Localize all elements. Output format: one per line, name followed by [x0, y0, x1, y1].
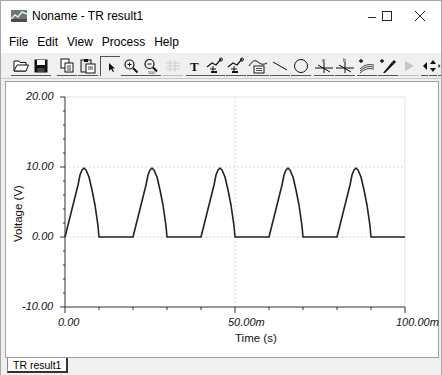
paste-icon	[80, 58, 96, 74]
app-window: Noname - TR result1 – File Edit View Pro…	[0, 0, 442, 375]
scroll-right-button[interactable]	[438, 56, 441, 76]
x-axis-title: Time (s)	[235, 332, 277, 344]
scroll-left-button[interactable]	[421, 56, 428, 76]
save-button[interactable]	[31, 56, 51, 76]
svg-text:T: T	[190, 59, 199, 73]
grid-icon	[166, 60, 180, 72]
add-curve-button[interactable]	[357, 56, 377, 76]
play-button[interactable]	[399, 56, 419, 76]
plot-grid	[65, 97, 405, 307]
save-icon	[34, 59, 48, 73]
zoom-out-icon: 100	[143, 58, 159, 74]
title-bar[interactable]: Noname - TR result1 –	[1, 1, 441, 31]
add-pen-icon	[379, 57, 397, 74]
y-axis	[60, 97, 65, 307]
up-down-arrow-icon	[429, 59, 437, 73]
svg-text:b: b	[343, 57, 346, 63]
curve-label-button[interactable]	[247, 56, 269, 76]
chart-app-icon	[11, 10, 27, 22]
marker-a-icon: a	[315, 57, 333, 74]
pointer-icon	[106, 61, 116, 73]
text-icon: T	[189, 59, 203, 73]
circle-button[interactable]	[291, 56, 311, 76]
add-curve-icon	[358, 57, 376, 74]
copy-icon	[60, 58, 75, 73]
right-arrow-icon	[438, 62, 441, 70]
window-title: Noname - TR result1	[32, 9, 143, 23]
marker-b-icon: b	[336, 57, 354, 74]
y-axis-title: Voltage (V)	[12, 185, 24, 242]
scroll-up-down-button[interactable]	[429, 56, 437, 76]
y-tick-label: 0.00	[32, 230, 53, 242]
add-pen-button[interactable]	[378, 56, 398, 76]
select-pointer-button[interactable]	[100, 56, 120, 76]
svg-text:100: 100	[148, 69, 155, 74]
cursor-b-icon	[227, 57, 245, 74]
circle-icon	[293, 58, 309, 74]
x-tick-label: 100.00m	[396, 316, 439, 328]
cursor-b-button[interactable]	[226, 56, 246, 76]
y-tick-label: -10.00	[22, 300, 53, 312]
svg-text:a: a	[322, 57, 325, 63]
close-button[interactable]	[397, 1, 442, 31]
toolbar: 100 T a	[1, 53, 441, 79]
tab-strip: TR result1	[1, 358, 441, 375]
menu-help[interactable]: Help	[150, 35, 183, 49]
menu-view[interactable]: View	[63, 35, 97, 49]
plot-panel[interactable]: 20.00 10.00 0.00 -10.00 0.00 50.00m 100.…	[5, 81, 439, 358]
copy-button[interactable]	[57, 56, 77, 76]
tab-tr-result1[interactable]: TR result1	[7, 358, 68, 373]
menu-bar: File Edit View Process Help	[1, 31, 441, 53]
marker-a-button[interactable]: a	[314, 56, 334, 76]
cursor-a-button[interactable]	[205, 56, 225, 76]
line-icon	[272, 60, 288, 72]
play-icon	[403, 60, 415, 72]
curve-label-icon	[248, 57, 268, 74]
y-tick-label: 10.00	[26, 160, 54, 172]
close-icon	[415, 11, 425, 21]
open-button[interactable]	[11, 56, 31, 76]
zoom-in-icon	[123, 58, 139, 74]
y-tick-label: 20.00	[26, 90, 54, 102]
menu-process[interactable]: Process	[98, 35, 149, 49]
open-icon	[13, 59, 29, 72]
grid-button[interactable]	[163, 56, 183, 76]
menu-file[interactable]: File	[5, 35, 32, 49]
text-button[interactable]: T	[186, 56, 206, 76]
zoom-in-button[interactable]	[121, 56, 141, 76]
maximize-icon	[382, 11, 392, 21]
x-tick-label: 0.00	[58, 316, 79, 328]
line-button[interactable]	[270, 56, 290, 76]
marker-b-button[interactable]: b	[335, 56, 355, 76]
menu-edit[interactable]: Edit	[33, 35, 62, 49]
zoom-out-button[interactable]: 100	[141, 56, 161, 76]
cursor-a-icon	[206, 57, 224, 74]
paste-button[interactable]	[78, 56, 98, 76]
x-axis	[65, 307, 405, 313]
x-tick-label: 50.00m	[228, 316, 265, 328]
left-arrow-icon	[422, 62, 428, 70]
